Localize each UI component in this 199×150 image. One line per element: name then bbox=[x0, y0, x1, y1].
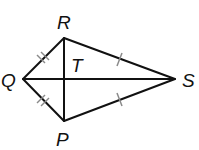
label-S: S bbox=[182, 70, 195, 91]
kite-diagram: R P Q S T bbox=[0, 0, 199, 150]
segment-PQ bbox=[23, 79, 64, 121]
label-T: T bbox=[71, 55, 84, 76]
label-P: P bbox=[56, 129, 69, 150]
segment-QR bbox=[23, 38, 64, 79]
label-Q: Q bbox=[1, 70, 16, 91]
label-R: R bbox=[57, 12, 71, 33]
